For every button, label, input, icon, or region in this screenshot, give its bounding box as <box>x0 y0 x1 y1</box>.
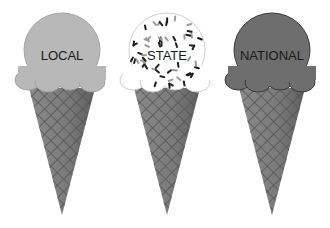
ice-cream-cone-local: LOCAL <box>15 13 106 215</box>
waffle-pattern <box>239 88 305 215</box>
cone-label-national: NATIONAL <box>240 48 304 63</box>
cone-label-local: LOCAL <box>41 48 84 63</box>
cone-label-state: STATE <box>147 48 187 63</box>
ice-cream-cone-state: STATE <box>120 13 211 215</box>
ice-cream-cone-national: NATIONAL <box>225 13 316 215</box>
waffle-pattern <box>134 88 200 215</box>
ice-cream-illustration: LOCALSTATENATIONAL <box>0 0 330 228</box>
waffle-pattern <box>29 88 95 215</box>
